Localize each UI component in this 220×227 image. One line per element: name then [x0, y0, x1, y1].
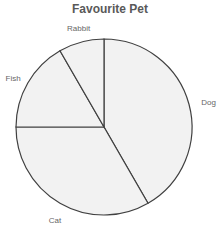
pie-chart: DogCatFishRabbit: [0, 0, 220, 227]
slice-label-rabbit: Rabbit: [67, 24, 91, 33]
slice-label-dog: Dog: [201, 98, 216, 107]
slice-label-fish: Fish: [6, 74, 21, 83]
slice-label-cat: Cat: [49, 216, 62, 225]
